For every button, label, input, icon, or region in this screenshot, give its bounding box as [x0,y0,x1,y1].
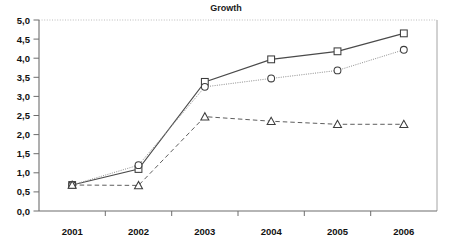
chart-canvas: Growth 0,0 0,5 1,0 1,5 2,0 2,5 3,0 3,5 4… [0,0,452,244]
x-tick-label-2: 2003 [194,226,215,237]
series-circle-marker-2006 [400,46,407,53]
y-tick-label-5: 2,5 [17,110,31,121]
series-circle-marker-2002 [135,162,142,169]
y-tick-label-9: 4,5 [17,34,31,45]
y-tick-label-10: 5,0 [17,15,30,26]
series-circle-marker-2003 [201,83,208,90]
y-tick-label-3: 1,5 [17,148,31,159]
y-tick-label-4: 2,0 [17,129,30,140]
x-tick-label-1: 2002 [128,226,149,237]
series-square-marker-2005 [334,48,341,55]
chart-background [0,0,452,244]
series-circle-marker-2005 [334,67,341,74]
series-square-marker-2006 [400,30,407,37]
x-tick-label-4: 2005 [327,226,349,237]
growth-line-chart: Growth 0,0 0,5 1,0 1,5 2,0 2,5 3,0 3,5 4… [0,0,452,244]
series-circle-marker-2004 [268,75,275,82]
y-tick-label-7: 3,5 [17,72,31,83]
y-tick-label-2: 1,0 [17,167,30,178]
series-square-marker-2004 [268,56,275,63]
y-tick-label-0: 0,0 [17,206,30,217]
y-tick-label-1: 0,5 [17,186,31,197]
y-tick-label-6: 3,0 [17,91,30,102]
x-tick-label-0: 2001 [62,226,84,237]
y-tick-label-8: 4,0 [17,53,30,64]
x-tick-label-5: 2006 [393,226,414,237]
x-tick-label-3: 2004 [261,226,283,237]
chart-title: Growth [210,3,242,13]
